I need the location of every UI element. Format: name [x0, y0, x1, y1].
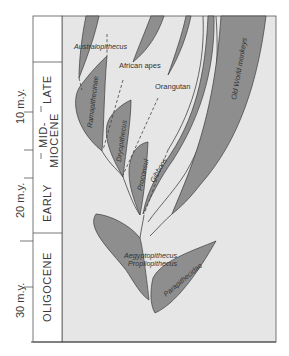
epoch-oligocene: OLIGOCENE — [41, 252, 53, 322]
epoch-late: LATE — [41, 75, 53, 104]
label-australopithecus: Australopithecus — [73, 42, 128, 51]
time-label-10: 10 m.y. — [14, 89, 26, 124]
label-orangutan: Orangutan — [155, 82, 190, 91]
time-label-30: 30 m.y. — [14, 283, 26, 318]
epoch-early: EARLY — [41, 184, 53, 222]
time-label-20: 20 m.y. — [14, 183, 26, 218]
label-african-apes: African apes — [119, 61, 161, 70]
label-propliopithecus: Propliopithecus — [128, 259, 178, 268]
epoch-miocene: MIOCENE — [48, 113, 60, 168]
phylogeny-diagram: 10 m.y. 20 m.y. 30 m.y. LATE MID- MIOCEN… — [0, 0, 289, 356]
